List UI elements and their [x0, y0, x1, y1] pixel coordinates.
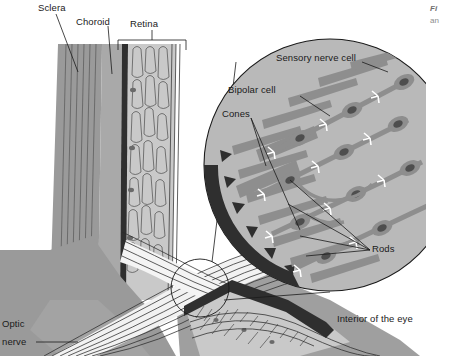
page-right-margin [426, 0, 459, 356]
retina-diagram-svg [0, 0, 459, 356]
label-sclera: Sclera [38, 2, 66, 13]
label-bipolar-cell: Bipolar cell [228, 84, 276, 95]
label-interior-of-the-eye: Interior of the eye [337, 313, 413, 324]
label-choroid: Choroid [76, 16, 110, 27]
caption-line2: an [430, 16, 439, 25]
label-retina: Retina [130, 18, 158, 29]
caption-line1: Fi [430, 4, 437, 13]
label-optic-nerve-line2: nerve [2, 336, 26, 347]
label-cones: Cones [222, 108, 250, 119]
label-rods: Rods [372, 243, 395, 254]
label-optic-nerve-line1: Optic [2, 318, 25, 329]
label-sensory-nerve-cell: Sensory nerve cell [276, 52, 356, 63]
figure-canvas: Sclera Choroid Retina Optic nerve Interi… [0, 0, 459, 356]
